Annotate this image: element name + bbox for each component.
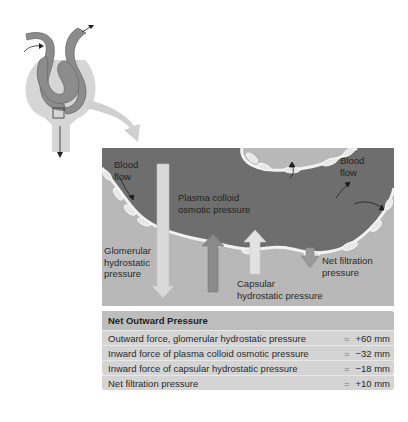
row-value: +60 mm [355, 333, 390, 344]
row-equals: = [344, 363, 350, 374]
row-equals: = [344, 378, 350, 389]
capsular-pressure-label: Capsular hydrostatic pressure [237, 278, 323, 301]
glomerular-pressure-label: Glomerular hydrostatic pressure [104, 245, 151, 280]
row-label: Inward force of capsular hydrostatic pre… [108, 363, 298, 374]
row-label: Outward force, glomerular hydrostatic pr… [108, 333, 306, 344]
row-value: −18 mm [355, 363, 390, 374]
capillary-detail-panel: Blood flow Plasma colloid osmotic pressu… [102, 148, 394, 306]
glomerulus-illustration [0, 0, 408, 160]
table-header: Net Outward Pressure [102, 311, 394, 330]
table-row: Outward force, glomerular hydrostatic pr… [102, 330, 394, 345]
table-title: Net Outward Pressure [108, 315, 208, 326]
net-filtration-label: Net filtration pressure [322, 255, 373, 278]
plasma-colloid-arrow [202, 234, 224, 292]
blood-flow-label-left: Blood flow [114, 159, 138, 182]
net-outward-pressure-table: Net Outward Pressure Outward force, glom… [102, 311, 394, 375]
row-equals: = [344, 348, 350, 359]
table-row: Inward force of capsular hydrostatic pre… [102, 360, 394, 375]
row-label: Net filtration pressure [108, 378, 198, 389]
row-value: +10 mm [355, 378, 390, 389]
table-row: Inward force of plasma colloid osmotic p… [102, 345, 394, 360]
plasma-colloid-label: Plasma colloid osmotic pressure [178, 192, 250, 215]
table-row-net: Net filtration pressure = +10 mm [102, 375, 394, 390]
blood-flow-label-right: Blood flow [340, 155, 364, 178]
row-equals: = [344, 333, 350, 344]
row-value: −32 mm [355, 348, 390, 359]
row-label: Inward force of plasma colloid osmotic p… [108, 348, 309, 359]
